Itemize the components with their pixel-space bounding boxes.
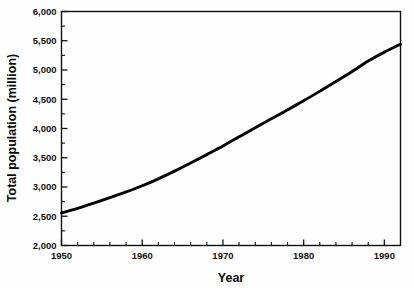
y-tick-label: 5,500 bbox=[33, 35, 57, 46]
x-tick-label: 1950 bbox=[51, 250, 72, 261]
y-tick-label: 3,000 bbox=[33, 181, 57, 192]
x-tick-label: 1970 bbox=[212, 250, 233, 261]
y-tick-label: 3,500 bbox=[33, 152, 57, 163]
y-tick-label: 2,500 bbox=[33, 211, 57, 222]
y-tick-label: 4,000 bbox=[33, 123, 57, 134]
y-axis-title: Total population (million) bbox=[5, 54, 19, 202]
x-axis-title: Year bbox=[218, 271, 245, 285]
x-tick-label: 1980 bbox=[293, 250, 314, 261]
chart-canvas: 2,0002,5003,0003,5004,0004,5005,0005,500… bbox=[0, 0, 414, 288]
y-axis-tick-labels: 2,0002,5003,0003,5004,0004,5005,0005,500… bbox=[33, 6, 57, 251]
y-tick-label: 6,000 bbox=[33, 6, 57, 17]
x-tick-label: 1960 bbox=[132, 250, 153, 261]
population-line-chart: 2,0002,5003,0003,5004,0004,5005,0005,500… bbox=[0, 0, 414, 288]
x-tick-label: 1990 bbox=[374, 250, 395, 261]
y-tick-label: 4,500 bbox=[33, 94, 57, 105]
y-tick-label: 5,000 bbox=[33, 64, 57, 75]
